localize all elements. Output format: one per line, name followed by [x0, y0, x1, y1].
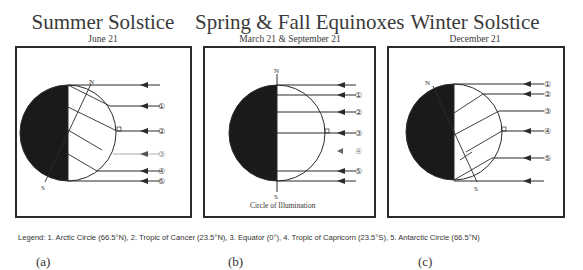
- svg-text:⑤: ⑤: [355, 167, 362, 176]
- circle-of-illumination-caption: Circle of Illumination: [250, 201, 315, 210]
- panel-c-globe: [406, 81, 544, 184]
- panel-a-label: (a): [36, 254, 50, 270]
- svg-text:③: ③: [158, 150, 165, 159]
- svg-text:④: ④: [158, 167, 165, 176]
- panel-b-label: (b): [228, 254, 243, 270]
- panel-c-north-label: N: [425, 79, 430, 87]
- legend: Legend: 1. Arctic Circle (66.5°N), 2. Tr…: [18, 233, 480, 242]
- svg-text:②: ②: [355, 108, 362, 117]
- earth-illumination-diagrams: N S ① ② ③ ④ ⑤ N S ① ② ③ ④ ⑤: [0, 0, 583, 270]
- panel-b-north-label: N: [274, 67, 279, 75]
- panel-b-ray-markers: ① ② ③ ④ ⑤: [355, 91, 362, 176]
- svg-text:①: ①: [544, 80, 551, 89]
- panel-a-globe: [20, 82, 160, 184]
- svg-text:⑤: ⑤: [544, 154, 551, 163]
- svg-text:②: ②: [158, 127, 165, 136]
- panel-c-label: (c): [418, 254, 432, 270]
- panel-a-north-label: N: [89, 78, 94, 86]
- svg-text:①: ①: [355, 91, 362, 100]
- svg-text:①: ①: [158, 102, 165, 111]
- panel-a-south-label: S: [41, 184, 45, 192]
- svg-text:⑤: ⑤: [158, 177, 165, 186]
- svg-text:③: ③: [355, 129, 362, 138]
- panel-b-globe: [229, 74, 356, 192]
- panel-c-ray-markers: ① ② ③ ④ ⑤: [544, 80, 551, 163]
- panel-c-south-label: S: [474, 185, 478, 193]
- svg-text:②: ②: [544, 90, 551, 99]
- panel-b-south-label: S: [274, 193, 278, 201]
- svg-text:④: ④: [544, 127, 551, 136]
- svg-text:③: ③: [544, 107, 551, 116]
- panel-a-ray-markers: ① ② ③ ④ ⑤: [158, 102, 165, 186]
- svg-text:④: ④: [355, 147, 362, 156]
